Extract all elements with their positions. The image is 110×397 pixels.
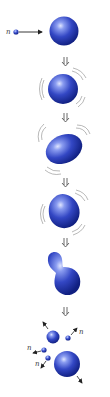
arrow-icon — [71, 328, 77, 335]
released-neutron — [45, 355, 50, 360]
incoming-neutron — [13, 29, 18, 34]
stage-vibrating-nucleus — [40, 68, 87, 107]
down-arrow-icon — [62, 113, 69, 122]
arrow-icon — [77, 376, 82, 383]
down-arrow-icon — [62, 57, 69, 66]
stage-deformed-nucleus — [41, 190, 89, 235]
nucleus — [49, 194, 80, 228]
down-arrow-icon — [62, 238, 69, 247]
stage-fission-products: n n n — [27, 322, 84, 383]
neutron-label: n — [27, 344, 32, 352]
nucleus — [41, 128, 87, 169]
released-neutron — [41, 347, 46, 352]
neutron-label: n — [79, 328, 84, 336]
neutron-label: n — [35, 360, 40, 368]
large-fragment — [54, 351, 80, 377]
arrow-icon — [43, 322, 48, 329]
stage-necking-nucleus — [48, 252, 80, 295]
stage-elongated-nucleus — [38, 124, 90, 175]
nucleus — [48, 74, 78, 104]
arrow-icon — [41, 361, 46, 368]
fission-diagram: n — [0, 0, 110, 397]
down-arrow-icon — [62, 178, 69, 187]
small-fragment — [47, 331, 60, 344]
arrow-icon — [33, 351, 41, 353]
nucleus — [50, 17, 79, 46]
down-arrow-icon — [62, 307, 69, 316]
incoming-neutron-label: n — [6, 28, 11, 36]
released-neutron — [65, 335, 70, 340]
nucleus — [48, 252, 80, 295]
stage-neutron-approach: n — [6, 17, 79, 46]
